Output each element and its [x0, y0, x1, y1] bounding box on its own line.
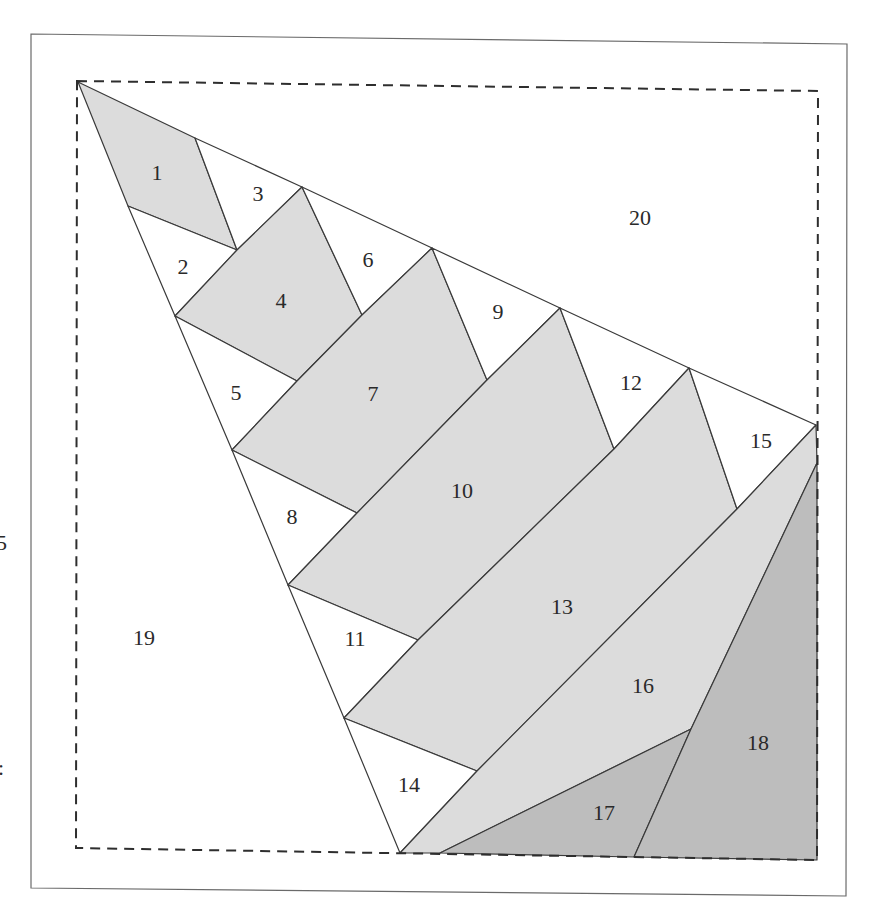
- cropped-edge-glyph: :: [0, 755, 4, 780]
- piece-label-20: 20: [629, 205, 651, 230]
- paper-piecing-diagram: 1234567891011121314151617181920 5:: [0, 0, 878, 908]
- piece-label-17: 17: [593, 800, 615, 825]
- piece-label-8: 8: [287, 504, 298, 529]
- pieces-layer: [78, 82, 817, 860]
- piece-label-18: 18: [747, 730, 769, 755]
- piece-label-2: 2: [178, 254, 189, 279]
- piece-label-3: 3: [253, 181, 264, 206]
- piece-label-15: 15: [750, 428, 772, 453]
- piece-label-9: 9: [493, 299, 504, 324]
- cropped-edge-glyph: 5: [0, 530, 7, 555]
- piece-label-11: 11: [344, 626, 365, 651]
- piece-label-4: 4: [276, 288, 287, 313]
- piece-label-6: 6: [363, 247, 374, 272]
- piece-label-14: 14: [398, 772, 420, 797]
- piece-label-5: 5: [231, 380, 242, 405]
- piece-label-16: 16: [632, 673, 654, 698]
- piece-label-12: 12: [620, 370, 642, 395]
- piece-label-10: 10: [451, 478, 473, 503]
- piece-label-13: 13: [551, 594, 573, 619]
- edge-glyphs-layer: 5:: [0, 530, 7, 780]
- piece-label-1: 1: [152, 160, 163, 185]
- piece-label-7: 7: [368, 381, 379, 406]
- piece-label-19: 19: [133, 625, 155, 650]
